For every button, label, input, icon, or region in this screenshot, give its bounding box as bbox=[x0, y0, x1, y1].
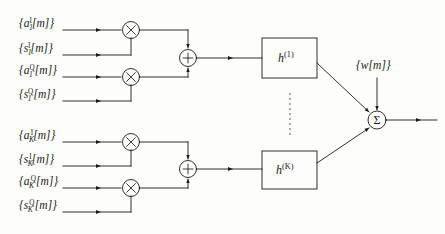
mult3-to-adderK-path bbox=[140, 142, 189, 159]
signal-line-sKQ bbox=[63, 196, 131, 212]
signal-line-sKI bbox=[63, 150, 131, 166]
input-label-aKI: {aKI[m]} bbox=[19, 130, 55, 143]
input-label-sKI: {sKI[m]} bbox=[19, 154, 54, 167]
vertical-ellipsis bbox=[288, 93, 292, 135]
input-label-sKQ: {sKQ[m]} bbox=[19, 200, 57, 213]
summation-sigma-glyph: Σ bbox=[370, 114, 384, 126]
filter-label-K: h(K) bbox=[276, 163, 294, 176]
input-label-a1I: {a1I[m]} bbox=[19, 18, 54, 31]
filterK-to-sum-line bbox=[317, 128, 369, 163]
input-label-a1Q: {a1Q[m]} bbox=[19, 65, 57, 78]
signal-line-s1I bbox=[63, 38, 131, 55]
signal-line-s1Q bbox=[63, 85, 131, 101]
mult1-to-adder-path bbox=[140, 30, 189, 48]
block-diagram-figure: {a1I[m]} {s1I[m]} {a1Q[m]} {s1Q[m]} {aKI… bbox=[0, 0, 445, 234]
input-label-s1Q: {s1Q[m]} bbox=[19, 89, 56, 102]
input-label-s1I: {s1I[m]} bbox=[19, 43, 53, 56]
input-label-aKQ: {aKQ[m]} bbox=[19, 176, 58, 189]
filter-label-1: h(1) bbox=[278, 51, 294, 64]
noise-label: {w[m]} bbox=[356, 60, 391, 72]
mult4-to-adderK-path bbox=[140, 179, 189, 188]
mult2-to-adder-path bbox=[140, 68, 189, 77]
